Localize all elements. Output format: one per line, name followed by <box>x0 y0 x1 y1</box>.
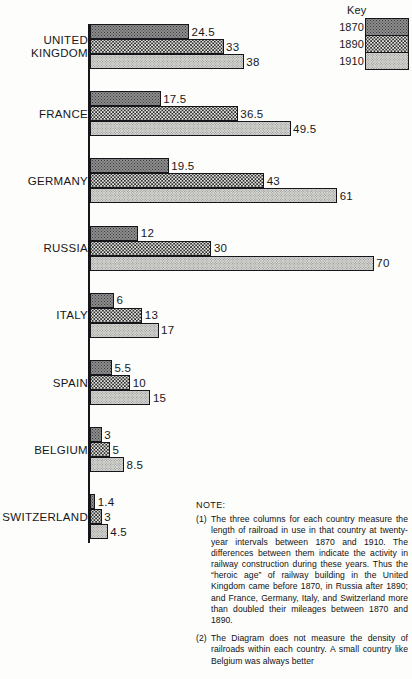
bar-1890: 13 <box>90 308 143 323</box>
bar-1890: 5 <box>90 442 110 457</box>
note-item-2-text: The Diagram does not measure the density… <box>211 633 408 667</box>
chart-note-block: NOTE: (1) The three columns for each cou… <box>196 500 408 674</box>
country-group: ITALY61317 <box>0 293 412 338</box>
bar-value-label: 61 <box>337 190 353 202</box>
country-group: GERMANY19.54361 <box>0 158 412 203</box>
bar-1870: 19.5 <box>90 158 169 173</box>
country-label: ITALY <box>0 309 88 322</box>
legend-title: Key <box>347 4 409 16</box>
bar-fill-1870 <box>90 158 169 173</box>
bar-1890: 30 <box>90 241 212 256</box>
bar-value-label: 24.5 <box>189 26 215 38</box>
bar-value-label: 17 <box>159 324 175 336</box>
country-label: UNITED KINGDOM <box>0 34 88 60</box>
bar-fill-1890 <box>90 308 143 323</box>
bar-fill-1910 <box>90 323 159 338</box>
bar-fill-1910 <box>90 188 338 203</box>
bar-1910: 49.5 <box>90 121 291 136</box>
bar-1910: 38 <box>90 54 244 69</box>
bar-fill-1890 <box>90 375 131 390</box>
bar-value-label: 13 <box>142 309 158 321</box>
bar-value-label: 19.5 <box>169 160 195 172</box>
note-item-2-number: (2) <box>196 633 211 667</box>
country-group: BELGIUM358.5 <box>0 427 412 472</box>
bar-1910: 70 <box>90 256 374 271</box>
bar-1870: 5.5 <box>90 360 112 375</box>
country-group: RUSSIA123070 <box>0 226 412 271</box>
bar-fill-1870 <box>90 427 102 442</box>
bar-1870: 24.5 <box>90 24 189 39</box>
country-label: GERMANY <box>0 174 88 187</box>
country-group: UNITED KINGDOM24.53338 <box>0 24 412 69</box>
bar-fill-1890 <box>90 509 102 524</box>
bar-fill-1890 <box>90 173 265 188</box>
bar-fill-1870 <box>90 293 114 308</box>
bar-1870: 6 <box>90 293 114 308</box>
note-item-2: (2) The Diagram does not measure the den… <box>196 633 408 667</box>
bar-1910: 15 <box>90 390 151 405</box>
bar-1870: 1.4 <box>90 494 96 509</box>
bar-value-label: 5.5 <box>112 362 131 374</box>
bar-fill-1910 <box>90 390 151 405</box>
bar-value-label: 5 <box>110 444 119 456</box>
note-item-1: (1) The three columns for each country m… <box>196 514 408 626</box>
bar-1890: 10 <box>90 375 131 390</box>
bar-fill-1910 <box>90 457 125 472</box>
bar-value-label: 3 <box>102 429 111 441</box>
bar-1910: 61 <box>90 188 338 203</box>
railroad-mileage-bar-chart: Key 1870 1890 1910 UNITED KINGDOM24.5333… <box>0 0 412 679</box>
bar-value-label: 36.5 <box>238 108 264 120</box>
bar-1890: 36.5 <box>90 106 238 121</box>
country-group: FRANCE17.536.549.5 <box>0 91 412 136</box>
bar-1870: 17.5 <box>90 91 161 106</box>
bar-fill-1890 <box>90 39 224 54</box>
bar-value-label: 8.5 <box>124 459 143 471</box>
bar-value-label: 6 <box>114 294 123 306</box>
bar-fill-1910 <box>90 121 291 136</box>
bar-fill-1890 <box>90 106 238 121</box>
bar-1910: 8.5 <box>90 457 125 472</box>
note-item-1-number: (1) <box>196 514 211 626</box>
bar-1910: 4.5 <box>90 524 108 539</box>
bar-value-label: 15 <box>150 392 166 404</box>
country-label: SPAIN <box>0 376 88 389</box>
bar-fill-1870 <box>90 226 139 241</box>
bar-value-label: 1.4 <box>95 496 114 508</box>
bar-fill-1910 <box>90 256 374 271</box>
bar-value-label: 4.5 <box>108 526 127 538</box>
bar-value-label: 49.5 <box>291 123 317 135</box>
bar-value-label: 12 <box>138 227 154 239</box>
bar-1890: 3 <box>90 509 102 524</box>
country-label: FRANCE <box>0 107 88 120</box>
bar-value-label: 17.5 <box>161 93 187 105</box>
bar-value-label: 3 <box>102 511 111 523</box>
bar-1870: 3 <box>90 427 102 442</box>
bar-fill-1890 <box>90 241 212 256</box>
bar-value-label: 30 <box>211 242 227 254</box>
note-heading: NOTE: <box>196 500 408 511</box>
bar-1890: 43 <box>90 173 265 188</box>
bar-value-label: 38 <box>244 56 260 68</box>
bar-value-label: 33 <box>224 41 240 53</box>
bar-fill-1910 <box>90 524 108 539</box>
country-label: BELGIUM <box>0 443 88 456</box>
bar-1870: 12 <box>90 226 139 241</box>
bar-fill-1870 <box>90 91 161 106</box>
country-group: SPAIN5.51015 <box>0 360 412 405</box>
bar-fill-1890 <box>90 442 110 457</box>
country-label: SWITZERLAND <box>0 510 88 523</box>
country-label: RUSSIA <box>0 242 88 255</box>
bar-fill-1910 <box>90 54 244 69</box>
bar-value-label: 70 <box>374 257 390 269</box>
bar-value-label: 43 <box>264 175 280 187</box>
bar-1890: 33 <box>90 39 224 54</box>
bar-fill-1870 <box>90 360 112 375</box>
note-item-1-text: The three columns for each country measu… <box>211 514 408 626</box>
bar-value-label: 10 <box>130 377 146 389</box>
bar-fill-1870 <box>90 24 189 39</box>
bar-1910: 17 <box>90 323 159 338</box>
